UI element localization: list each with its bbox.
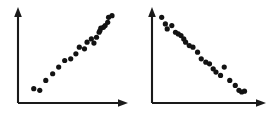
data-point (62, 58, 67, 63)
data-point (84, 40, 89, 45)
y-axis (14, 7, 22, 103)
x-axis-arrowhead-icon (118, 99, 128, 107)
data-point (31, 86, 36, 91)
data-point (50, 71, 55, 76)
data-point (222, 65, 227, 70)
data-point (68, 56, 73, 61)
y-axis (148, 7, 156, 103)
y-axis-arrowhead-icon (14, 7, 22, 17)
data-point (190, 45, 195, 50)
data-point (91, 40, 96, 45)
data-point (56, 65, 61, 70)
data-point (105, 20, 110, 25)
data-point (37, 88, 42, 93)
negative-correlation-chart (136, 0, 272, 119)
positive-correlation-panel (0, 0, 136, 119)
data-point (73, 51, 78, 56)
data-point (195, 50, 200, 55)
data-point (233, 83, 238, 88)
data-point (242, 89, 247, 94)
data-point (159, 15, 164, 20)
data-point-group (31, 13, 114, 93)
negative-correlation-panel (136, 0, 272, 119)
x-axis (18, 99, 128, 107)
positive-correlation-chart (0, 0, 136, 119)
data-point (213, 70, 218, 75)
data-point (82, 46, 87, 51)
x-axis-arrowhead-icon (256, 99, 266, 107)
data-point (77, 45, 82, 50)
data-point (199, 56, 204, 61)
data-point (169, 23, 174, 28)
data-point (227, 78, 232, 83)
data-point (43, 78, 48, 83)
data-point-group (159, 15, 247, 95)
data-point (165, 26, 170, 31)
data-point (207, 61, 212, 66)
x-axis (152, 99, 266, 107)
data-point (109, 13, 114, 18)
y-axis-arrowhead-icon (148, 7, 156, 17)
data-point (163, 21, 168, 26)
data-point (218, 73, 223, 78)
scatter-plot-figure (0, 0, 272, 119)
data-point (94, 35, 99, 40)
